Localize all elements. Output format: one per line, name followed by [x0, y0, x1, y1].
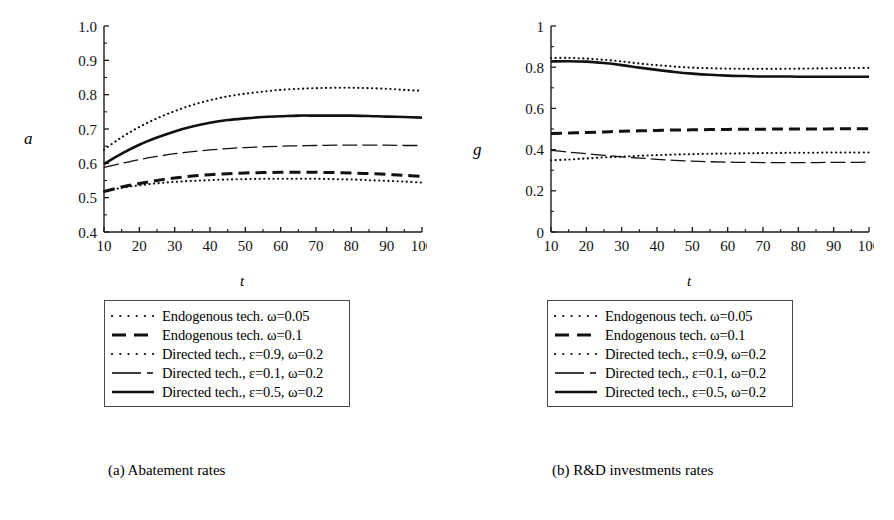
x-tick-label: 100	[411, 238, 427, 254]
legend-line-sample	[111, 366, 155, 380]
x-tick-label: 60	[720, 238, 735, 254]
legend-row: Directed tech., ε=0.5, ω=0.2	[554, 382, 784, 401]
x-tick-label: 50	[685, 238, 700, 254]
legend-line-sample	[111, 385, 155, 399]
panel-caption-a: (a) Abatement rates	[108, 462, 225, 479]
series-line	[551, 152, 869, 160]
y-tick-label: 0.8	[525, 60, 544, 76]
y-tick-label: 0.7	[78, 122, 97, 138]
legend-label: Endogenous tech. ω=0.1	[605, 328, 745, 342]
legend-row: Directed tech., ε=0.1, ω=0.2	[111, 363, 341, 382]
y-tick-label: 1	[537, 19, 545, 35]
legend-row: Endogenous tech. ω=0.05	[554, 306, 784, 325]
legend-label: Directed tech., ε=0.9, ω=0.2	[605, 347, 766, 361]
x-tick-label: 20	[579, 238, 594, 254]
legend-sample-fine-dotted-icon	[111, 309, 155, 323]
legend-line-sample	[554, 347, 598, 361]
x-axis-label-a: t	[240, 273, 244, 290]
y-tick-label: 0.2	[525, 183, 544, 199]
legend-label: Directed tech., ε=0.5, ω=0.2	[605, 385, 766, 399]
y-tick-label: 0.5	[78, 190, 97, 206]
y-tick-label: 0.6	[78, 156, 97, 172]
x-tick-label: 10	[97, 238, 112, 254]
plot-area-a: 0.40.50.60.70.80.91.01020304050607080901…	[62, 18, 427, 266]
series-line	[551, 129, 869, 134]
legend-label: Endogenous tech. ω=0.1	[162, 328, 302, 342]
y-axis-label-a: a	[24, 129, 33, 149]
legend-line-sample	[111, 328, 155, 342]
legend-label: Endogenous tech. ω=0.05	[162, 309, 310, 323]
legend-line-sample	[554, 366, 598, 380]
legend-row: Endogenous tech. ω=0.05	[111, 306, 341, 325]
x-tick-label: 70	[756, 238, 771, 254]
legend-line-sample	[554, 385, 598, 399]
x-tick-label: 100	[858, 238, 874, 254]
x-tick-label: 20	[132, 238, 147, 254]
legend-box-b: Endogenous tech. ω=0.05Endogenous tech. …	[547, 300, 793, 407]
y-tick-label: 0.6	[525, 101, 544, 117]
legend-line-sample	[554, 309, 598, 323]
x-tick-label: 10	[544, 238, 559, 254]
x-tick-label: 30	[167, 238, 182, 254]
legend-sample-thick-solid-icon	[554, 385, 598, 399]
legend-sample-fine-dotted-icon	[554, 309, 598, 323]
panel-caption-b: (b) R&D investments rates	[552, 462, 713, 479]
x-tick-label: 30	[614, 238, 629, 254]
series-line	[104, 179, 422, 192]
x-tick-label: 60	[273, 238, 288, 254]
y-axis-label-b: g	[473, 140, 482, 160]
legend-row: Directed tech., ε=0.9, ω=0.2	[554, 344, 784, 363]
x-axis-label-b: t	[687, 273, 691, 290]
y-tick-label: 0.8	[78, 87, 97, 103]
y-tick-label: 0.4	[525, 142, 544, 158]
legend-sample-thick-dashed-icon	[111, 328, 155, 342]
y-tick-label: 0.9	[78, 53, 97, 69]
legend-sample-fine-dotted-icon	[554, 347, 598, 361]
legend-line-sample	[111, 309, 155, 323]
legend-sample-thin-dash-dot-icon	[111, 366, 155, 380]
legend-label: Directed tech., ε=0.1, ω=0.2	[162, 366, 323, 380]
legend-label: Endogenous tech. ω=0.05	[605, 309, 753, 323]
series-line	[104, 172, 422, 191]
x-tick-label: 90	[379, 238, 394, 254]
legend-row: Endogenous tech. ω=0.1	[554, 325, 784, 344]
x-tick-label: 40	[650, 238, 665, 254]
legend-row: Endogenous tech. ω=0.1	[111, 325, 341, 344]
series-line	[104, 145, 422, 167]
legend-sample-thin-dash-dot-icon	[554, 366, 598, 380]
legend-line-sample	[554, 328, 598, 342]
x-tick-label: 70	[309, 238, 324, 254]
figure-two-panel: a 0.40.50.60.70.80.91.010203040506070809…	[0, 0, 894, 520]
x-tick-label: 90	[826, 238, 841, 254]
legend-sample-thick-dashed-icon	[554, 328, 598, 342]
legend-line-sample	[111, 347, 155, 361]
legend-label: Directed tech., ε=0.5, ω=0.2	[162, 385, 323, 399]
legend-label: Directed tech., ε=0.9, ω=0.2	[162, 347, 323, 361]
legend-row: Directed tech., ε=0.9, ω=0.2	[111, 344, 341, 363]
y-tick-label: 0.4	[78, 225, 97, 241]
x-tick-label: 40	[203, 238, 218, 254]
legend-box-a: Endogenous tech. ω=0.05Endogenous tech. …	[104, 300, 350, 407]
panel-rd-investments-rates: g 00.20.40.60.81102030405060708090100 t …	[447, 0, 894, 520]
chart-svg-a: 0.40.50.60.70.80.91.01020304050607080901…	[62, 18, 427, 266]
legend-row: Directed tech., ε=0.5, ω=0.2	[111, 382, 341, 401]
legend-row: Directed tech., ε=0.1, ω=0.2	[554, 363, 784, 382]
panel-abatement-rates: a 0.40.50.60.70.80.91.010203040506070809…	[0, 0, 447, 520]
y-tick-label: 1.0	[78, 19, 97, 35]
plot-area-b: 00.20.40.60.81102030405060708090100	[509, 18, 874, 266]
legend-sample-fine-dotted-icon	[111, 347, 155, 361]
x-tick-label: 50	[238, 238, 253, 254]
x-tick-label: 80	[344, 238, 359, 254]
x-tick-label: 80	[791, 238, 806, 254]
chart-svg-b: 00.20.40.60.81102030405060708090100	[509, 18, 874, 266]
legend-label: Directed tech., ε=0.1, ω=0.2	[605, 366, 766, 380]
legend-sample-thick-solid-icon	[111, 385, 155, 399]
